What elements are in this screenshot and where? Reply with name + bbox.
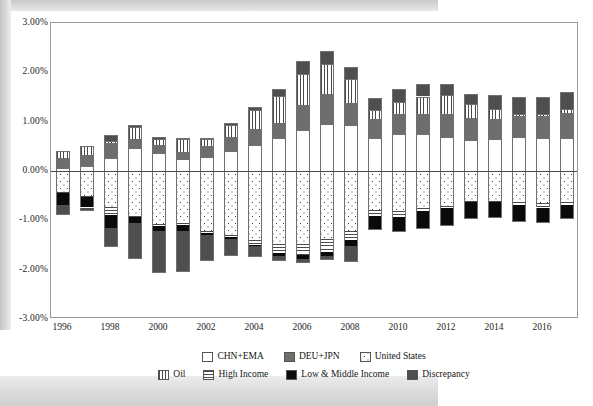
bar-segment bbox=[464, 202, 478, 218]
legend-item[interactable]: High Income bbox=[203, 370, 268, 380]
chart-legend: CHN+EMADEU+JPNUnited States OilHigh Inco… bbox=[50, 352, 578, 396]
bar-top-cap bbox=[296, 61, 310, 62]
bar-segment bbox=[344, 125, 358, 171]
bar-segment bbox=[344, 79, 358, 103]
bar-segment bbox=[464, 171, 478, 201]
bar-segment bbox=[152, 231, 166, 272]
bar-segment bbox=[488, 95, 502, 110]
bar-segment bbox=[536, 116, 550, 139]
legend-item[interactable]: Low & Middle Income bbox=[286, 370, 389, 380]
bar-group[interactable] bbox=[80, 23, 94, 317]
bar-segment bbox=[128, 139, 142, 148]
bar-group[interactable] bbox=[536, 23, 550, 317]
bar-segment bbox=[80, 197, 94, 208]
x-axis-tick-label: 1996 bbox=[53, 322, 72, 332]
bar-segment bbox=[536, 138, 550, 171]
bar-segment bbox=[296, 105, 310, 130]
bar-group[interactable] bbox=[272, 23, 286, 317]
bar-top-cap bbox=[560, 92, 574, 93]
bar-segment bbox=[440, 84, 454, 95]
bar-segment bbox=[272, 89, 286, 96]
bar-top-cap bbox=[80, 146, 94, 147]
legend-item[interactable]: United States bbox=[360, 352, 426, 362]
plot-area bbox=[50, 22, 578, 318]
bar-group[interactable] bbox=[320, 23, 334, 317]
bar-segment bbox=[392, 102, 406, 114]
bar-segment bbox=[560, 92, 574, 109]
bar-segment bbox=[224, 125, 238, 137]
bar-segment bbox=[272, 244, 286, 253]
bar-group[interactable] bbox=[128, 23, 142, 317]
bar-group[interactable] bbox=[176, 23, 190, 317]
bar-group[interactable] bbox=[56, 23, 70, 317]
bar-top-cap bbox=[320, 51, 334, 52]
legend-item-label: High Income bbox=[218, 370, 268, 380]
bar-segment bbox=[440, 171, 454, 206]
bar-segment bbox=[104, 228, 118, 246]
bar-segment bbox=[248, 129, 262, 146]
bar-segment bbox=[512, 205, 526, 222]
bar-segment bbox=[56, 158, 70, 168]
y-axis: 3.00%2.00%1.00%0.00%-1.00%-2.00%-3.00% bbox=[0, 0, 48, 406]
swatch-vertical-stripes-icon bbox=[158, 370, 169, 380]
bar-group[interactable] bbox=[464, 23, 478, 317]
bar-group[interactable] bbox=[392, 23, 406, 317]
bar-segment bbox=[440, 95, 454, 114]
bar-segment bbox=[488, 171, 502, 201]
bar-bottom-cap bbox=[80, 210, 94, 211]
bar-top-cap bbox=[512, 97, 526, 98]
bar-group[interactable] bbox=[248, 23, 262, 317]
bar-segment bbox=[512, 171, 526, 202]
bar-group[interactable] bbox=[512, 23, 526, 317]
bar-segment bbox=[296, 74, 310, 106]
bar-segment bbox=[224, 137, 238, 151]
x-axis-tick-label: 2004 bbox=[245, 322, 264, 332]
bar-group[interactable] bbox=[296, 23, 310, 317]
bar-group[interactable] bbox=[488, 23, 502, 317]
legend-item[interactable]: Oil bbox=[158, 370, 185, 380]
bar-group[interactable] bbox=[368, 23, 382, 317]
bar-segment bbox=[416, 211, 430, 228]
bar-group[interactable] bbox=[440, 23, 454, 317]
bar-group[interactable] bbox=[344, 23, 358, 317]
bar-segment bbox=[392, 89, 406, 102]
x-axis: 1996199820002002200420062008201020122014… bbox=[50, 322, 578, 338]
legend-row-primary: CHN+EMADEU+JPNUnited States bbox=[50, 352, 578, 362]
bar-segment bbox=[368, 138, 382, 171]
bar-group[interactable] bbox=[152, 23, 166, 317]
bar-segment bbox=[464, 94, 478, 104]
bar-segment bbox=[248, 145, 262, 171]
bar-segment bbox=[152, 145, 166, 153]
bar-segment bbox=[320, 124, 334, 171]
bar-segment bbox=[80, 146, 94, 155]
bar-group[interactable] bbox=[416, 23, 430, 317]
legend-item-label: Low & Middle Income bbox=[301, 370, 389, 380]
bar-segment bbox=[104, 207, 118, 216]
bar-bottom-cap bbox=[296, 262, 310, 263]
bar-segment bbox=[176, 139, 190, 152]
bar-segment bbox=[104, 215, 118, 228]
bar-bottom-cap bbox=[56, 214, 70, 215]
bar-segment bbox=[536, 114, 550, 115]
x-axis-tick-label: 2010 bbox=[389, 322, 408, 332]
bar-segment bbox=[512, 114, 526, 116]
bar-group[interactable] bbox=[200, 23, 214, 317]
swatch-black-icon bbox=[286, 370, 297, 380]
legend-item[interactable]: DEU+JPN bbox=[284, 352, 340, 362]
bar-segment bbox=[440, 137, 454, 171]
bar-segment bbox=[392, 134, 406, 171]
bar-group[interactable] bbox=[560, 23, 574, 317]
bar-group[interactable] bbox=[224, 23, 238, 317]
bar-group[interactable] bbox=[104, 23, 118, 317]
bar-segment bbox=[248, 246, 262, 256]
swatch-dotted-icon bbox=[360, 352, 371, 362]
legend-item[interactable]: Discrepancy bbox=[407, 370, 469, 380]
bar-bottom-cap bbox=[152, 272, 166, 273]
x-axis-tick-label: 2014 bbox=[485, 322, 504, 332]
bar-segment bbox=[104, 143, 118, 158]
bars-container bbox=[51, 23, 577, 317]
bar-segment bbox=[248, 110, 262, 129]
legend-item[interactable]: CHN+EMA bbox=[202, 352, 264, 362]
bar-segment bbox=[416, 114, 430, 134]
bar-segment bbox=[368, 216, 382, 228]
